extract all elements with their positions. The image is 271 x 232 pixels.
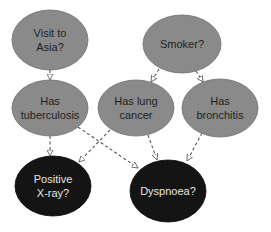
node-bronchitis: Hasbronchitis	[182, 79, 258, 137]
edge-smoker-to-lung_cancer	[151, 69, 159, 82]
node-label: X-ray?	[37, 187, 69, 199]
bayesian-network-diagram: Visit toAsia?Smoker?HastuberculosisHas l…	[0, 0, 271, 232]
node-label: Asia?	[36, 41, 64, 53]
node-lung_cancer: Has lungcancer	[98, 80, 174, 136]
edge-bronchitis-to-dyspnoea	[187, 133, 202, 161]
node-label: Smoker?	[160, 38, 204, 50]
node-ellipse	[15, 156, 91, 216]
nodes-group: Visit toAsia?Smoker?HastuberculosisHas l…	[12, 10, 258, 222]
node-label: Has	[210, 95, 230, 107]
node-tuberculosis: Hastuberculosis	[12, 80, 88, 136]
edge-lung_cancer-to-dyspnoea	[148, 135, 157, 160]
node-label: Visit to	[34, 27, 67, 39]
node-smoker: Smoker?	[143, 15, 221, 73]
node-asia: Visit toAsia?	[12, 10, 88, 70]
node-dyspnoea: Dyspnoea?	[130, 160, 206, 222]
edge-smoker-to-bronchitis	[196, 71, 203, 82]
node-label: cancer	[119, 109, 152, 121]
node-ellipse	[12, 80, 88, 136]
node-label: Has lung	[114, 95, 157, 107]
node-ellipse	[98, 80, 174, 136]
node-label: tuberculosis	[21, 109, 80, 121]
node-label: Dyspnoea?	[140, 185, 196, 197]
node-label: Has	[40, 95, 60, 107]
node-ellipse	[182, 79, 258, 137]
node-label: bronchitis	[196, 109, 244, 121]
node-ellipse	[12, 10, 88, 70]
node-xray: PositiveX-ray?	[15, 156, 91, 216]
node-label: Positive	[34, 173, 73, 185]
